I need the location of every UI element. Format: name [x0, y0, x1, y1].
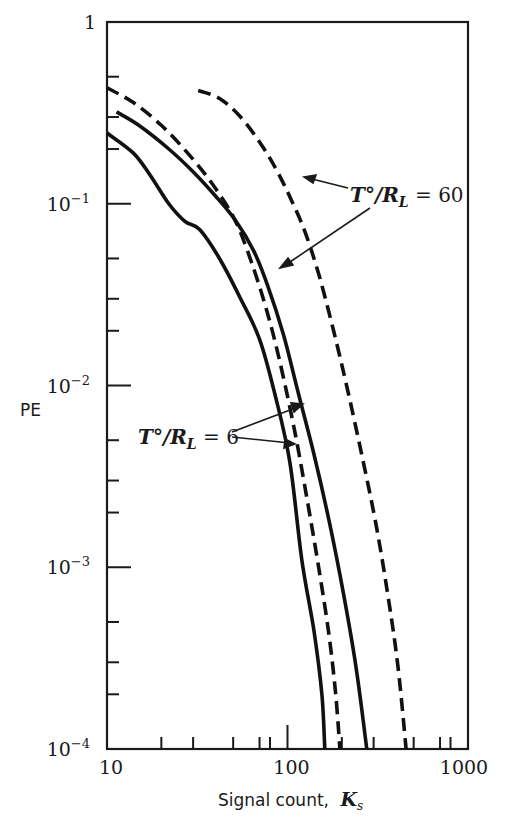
pe-vs-signal-count-chart: 110−110−210−310−4 101001000 PE Signal co… — [0, 0, 513, 822]
plot-frame — [107, 22, 468, 749]
y-tick-label: 10−2 — [47, 373, 90, 397]
x-tick-label: 10 — [99, 756, 123, 778]
annotation-t-rl-6: T°/RL = 6 — [138, 425, 239, 452]
x-axis-label: Signal count, Ks — [218, 788, 363, 813]
y-tick-label: 10−3 — [47, 554, 90, 578]
axis-major-ticks — [107, 22, 288, 749]
y-tick-label: 10−4 — [47, 736, 90, 760]
y-tick-label: 1 — [84, 11, 96, 33]
y-axis-label: PE — [20, 400, 41, 420]
y-tick-label: 10−1 — [47, 191, 90, 215]
x-tick-label: 1000 — [440, 756, 488, 778]
y-tick-labels: 110−110−210−310−4 — [47, 11, 96, 760]
annotation-t-rl-60: T°/RL = 60 — [350, 183, 464, 210]
x-tick-labels: 101001000 — [99, 756, 488, 778]
x-tick-label: 100 — [273, 756, 309, 778]
